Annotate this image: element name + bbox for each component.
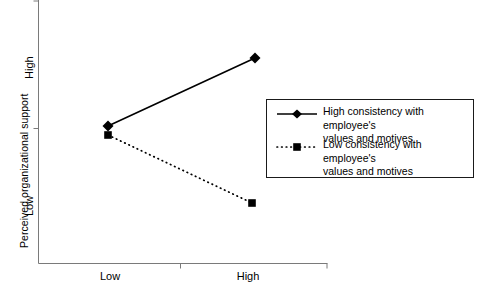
legend-label-line1: Low consistency with employee's [323,138,473,165]
y-axis-tick-label-high: High [23,56,35,79]
diamond-marker-icon [250,53,261,64]
interaction-plot-figure: Perceived organizational support High Lo… [0,0,479,290]
legend-item-low-consistency[interactable]: Low consistency with employee's values a… [267,139,473,171]
legend-sample-solid-diamond [276,106,318,122]
x-axis-tick-label-low: Low [80,270,140,282]
y-axis-tick-label-low: Low [23,196,35,216]
legend-box: High consistency with employee's values … [266,99,474,178]
legend-item-high-consistency[interactable]: High consistency with employee's values … [267,106,473,138]
series-high-consistency-line [108,58,255,126]
square-marker-icon [248,199,256,207]
legend-label-line2: values and motives [323,165,473,179]
series-low-consistency-line [108,135,252,203]
square-marker-icon [293,143,301,151]
legend-sample-dotted-square [276,139,318,155]
legend-label-low-consistency: Low consistency with employee's values a… [323,138,473,179]
legend-label-line1: High consistency with employee's [323,105,473,132]
diamond-marker-icon [292,109,302,118]
square-marker-icon [104,131,112,139]
diamond-marker-icon [103,121,114,132]
x-axis-tick-label-high: High [218,270,278,282]
